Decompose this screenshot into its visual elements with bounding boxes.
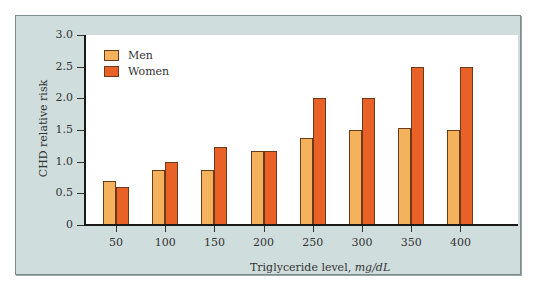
x-tick-label: 250 — [293, 236, 333, 249]
y-tick-label: 0 — [33, 219, 73, 231]
x-tick-label: 350 — [391, 236, 431, 249]
bar-women-50 — [116, 187, 129, 225]
x-tick-label: 200 — [244, 236, 284, 249]
bar-men-200 — [251, 151, 264, 225]
bar-men-50 — [103, 181, 116, 225]
x-tick — [264, 225, 265, 232]
men-swatch-icon — [104, 50, 119, 61]
legend-label-women: Women — [128, 65, 169, 78]
bar-men-250 — [300, 138, 313, 225]
legend: Men Women — [104, 47, 169, 79]
bar-women-200 — [264, 151, 277, 225]
bar-women-350 — [411, 67, 424, 225]
bar-women-400 — [460, 67, 473, 225]
women-swatch-icon — [104, 66, 119, 77]
x-axis-unit: mg/dL — [355, 261, 391, 274]
bar-women-100 — [165, 162, 178, 225]
x-axis-title: Triglyceride level, mg/dL — [250, 261, 490, 274]
bar-men-100 — [152, 170, 165, 225]
x-tick-label: 50 — [96, 236, 136, 249]
bar-women-250 — [313, 98, 326, 225]
y-axis-line — [84, 35, 86, 226]
x-tick — [460, 225, 461, 232]
bar-men-150 — [201, 170, 214, 225]
x-tick-label: 100 — [145, 236, 185, 249]
y-tick-label: 0.5 — [33, 187, 73, 199]
bar-women-150 — [214, 147, 227, 225]
x-tick — [411, 225, 412, 232]
x-tick — [214, 225, 215, 232]
bar-men-300 — [349, 130, 362, 225]
x-tick — [313, 225, 314, 232]
x-tick — [116, 225, 117, 232]
legend-label-men: Men — [128, 49, 153, 62]
bar-men-350 — [398, 128, 411, 225]
x-axis-line — [84, 224, 518, 226]
y-tick-label: 3.0 — [33, 29, 73, 41]
x-tick — [165, 225, 166, 232]
x-axis-title-text: Triglyceride level, — [250, 261, 351, 274]
legend-item-women: Women — [104, 63, 169, 79]
x-tick-label: 300 — [342, 236, 382, 249]
y-tick-label: 2.5 — [33, 61, 73, 73]
bar-women-300 — [362, 98, 375, 225]
legend-item-men: Men — [104, 47, 169, 63]
x-tick-label: 400 — [440, 236, 480, 249]
bar-men-400 — [447, 130, 460, 225]
x-tick — [362, 225, 363, 232]
x-tick-label: 150 — [194, 236, 234, 249]
y-axis-title: CHD relative risk — [37, 74, 50, 184]
